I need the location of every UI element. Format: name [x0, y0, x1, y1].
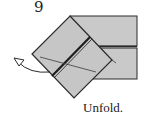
- origami-diagram: [0, 0, 147, 116]
- step-instruction: Unfold.: [83, 100, 123, 115]
